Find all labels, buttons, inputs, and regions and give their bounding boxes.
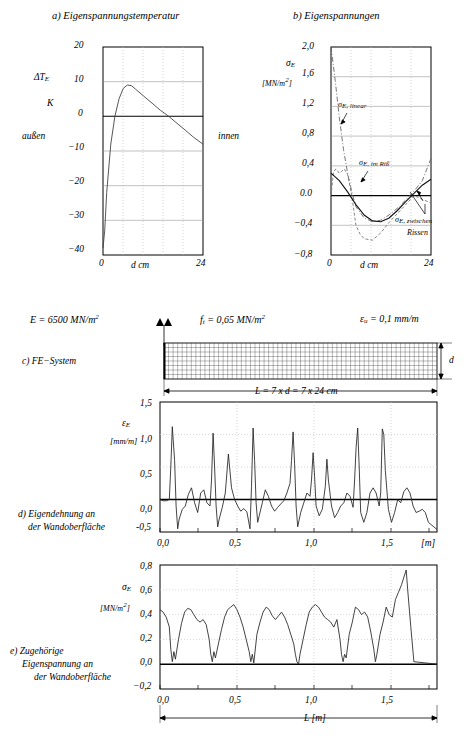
panel-e-plot [0, 0, 471, 736]
figure-root: a) Eigenspannungstemperatur ΔTE K außen … [0, 0, 471, 736]
